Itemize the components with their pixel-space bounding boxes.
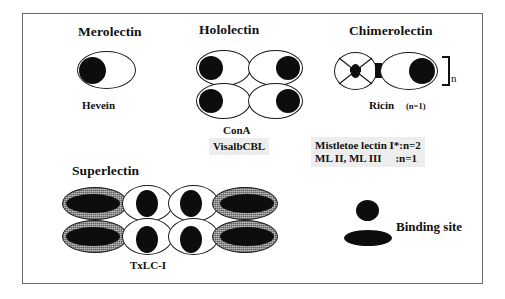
label-cona: ConA bbox=[223, 124, 251, 136]
binding-site-blob bbox=[276, 56, 300, 80]
heading-chimerolectin: Chimerolectin bbox=[349, 23, 433, 39]
binding-site-blob bbox=[199, 89, 223, 113]
binding-site-ellipse bbox=[220, 227, 274, 246]
binding-site-ellipse bbox=[66, 227, 120, 246]
binding-site-ellipse bbox=[220, 194, 274, 213]
mistletoe-note: Mistletoe lectin I*:n=2ML II, ML III :n=… bbox=[311, 137, 425, 167]
label-txlc-i: TxLC-I bbox=[130, 259, 166, 271]
heading-superlectin: Superlectin bbox=[72, 163, 139, 179]
binding-site-blob bbox=[79, 57, 106, 84]
cross-out-icon bbox=[334, 52, 377, 90]
mistletoe-note-line2: ML II, ML III :n=1 bbox=[315, 152, 417, 164]
label-hevein: Hevein bbox=[82, 99, 115, 111]
binding-site-blob bbox=[136, 226, 158, 253]
binding-site-circle-icon bbox=[356, 200, 379, 221]
label-visalbcbl: VisalbCBL bbox=[209, 138, 269, 155]
binding-site-blob bbox=[276, 89, 300, 113]
binding-site-blob bbox=[180, 190, 202, 217]
legend-label: Binding site bbox=[396, 219, 462, 235]
binding-site-blob bbox=[136, 190, 158, 217]
figure-canvas: Merolectin Hololectin Chimerolectin Supe… bbox=[0, 0, 505, 299]
heading-hololectin: Hololectin bbox=[199, 22, 259, 38]
binding-site-ellipse bbox=[66, 194, 120, 213]
binding-site-blob bbox=[409, 58, 435, 84]
label-ricin-n: (n=1) bbox=[406, 101, 425, 111]
binding-site-ellipse-icon bbox=[344, 230, 392, 246]
repeat-bracket bbox=[442, 56, 450, 86]
heading-merolectin: Merolectin bbox=[78, 24, 142, 40]
label-ricin: Ricin bbox=[369, 99, 394, 111]
repeat-subscript-n: n bbox=[451, 72, 457, 84]
binding-site-blob bbox=[199, 56, 223, 80]
binding-site-blob bbox=[180, 226, 202, 253]
mistletoe-note-line1: Mistletoe lectin I*:n=2 bbox=[315, 139, 421, 151]
